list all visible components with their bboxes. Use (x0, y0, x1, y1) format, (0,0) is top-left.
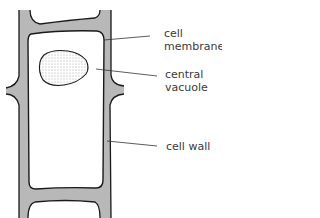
label-cell-wall: cell wall (166, 140, 210, 153)
label-line: membrane (164, 40, 222, 53)
label-line: cell (164, 27, 222, 40)
label-cell-membrane: cell membrane (164, 27, 222, 53)
label-central-vacuole: central vacuole (165, 68, 208, 94)
leader-line-cell-wall (107, 141, 157, 146)
label-line: cell wall (166, 140, 210, 153)
label-line: vacuole (165, 81, 208, 94)
label-line: central (165, 68, 208, 81)
